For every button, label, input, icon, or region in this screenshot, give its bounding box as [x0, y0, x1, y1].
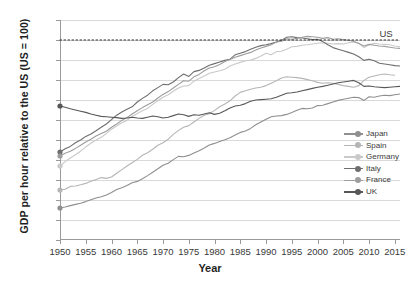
legend-swatch-icon	[344, 141, 363, 150]
legend-swatch-icon	[344, 187, 363, 196]
series-start-marker-japan	[57, 205, 62, 210]
legend-item-italy[interactable]: Italy	[344, 163, 399, 175]
x-tick-mark	[215, 240, 216, 244]
legend-label: Germany	[366, 151, 399, 163]
x-tick-mark	[163, 240, 164, 244]
legend-item-spain[interactable]: Spain	[344, 140, 399, 152]
legend-swatch-icon	[344, 176, 363, 185]
x-tick-mark	[60, 240, 61, 244]
x-tick-mark	[86, 240, 87, 244]
y-axis-title: GDP per hour relative to the US (US = 10…	[18, 16, 30, 236]
legend: JapanSpainGermanyItalyFranceUK	[344, 128, 399, 198]
x-tick-mark	[292, 240, 293, 244]
legend-item-france[interactable]: France	[344, 174, 399, 186]
series-start-marker-france	[57, 153, 62, 158]
legend-swatch-icon	[344, 152, 363, 161]
x-tick-mark	[395, 240, 396, 244]
legend-item-japan[interactable]: Japan	[344, 128, 399, 140]
x-tick-mark	[343, 240, 344, 244]
series-start-marker-germany	[57, 163, 62, 168]
us-reference-label: US	[379, 28, 392, 39]
legend-label: UK	[366, 186, 377, 198]
x-tick-mark	[189, 240, 190, 244]
legend-swatch-icon	[344, 129, 363, 138]
legend-label: Japan	[366, 128, 388, 140]
x-tick-mark	[112, 240, 113, 244]
chart-container: GDP per hour relative to the US (US = 10…	[0, 0, 420, 281]
legend-label: Italy	[366, 163, 381, 175]
x-tick-mark	[137, 240, 138, 244]
legend-item-germany[interactable]: Germany	[344, 151, 399, 163]
legend-item-uk[interactable]: UK	[344, 186, 399, 198]
series-start-marker-spain	[57, 187, 62, 192]
legend-label: France	[366, 174, 391, 186]
x-tick-mark	[240, 240, 241, 244]
legend-label: Spain	[366, 140, 386, 152]
x-axis-title: Year	[0, 262, 420, 274]
x-tick-mark	[266, 240, 267, 244]
x-tick-label: 2015	[375, 246, 415, 257]
x-tick-mark	[369, 240, 370, 244]
legend-swatch-icon	[344, 164, 363, 173]
series-start-marker-uk	[57, 103, 62, 108]
x-tick-mark	[318, 240, 319, 244]
